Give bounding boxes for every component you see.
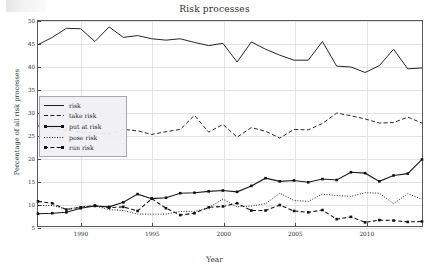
data-point-marker — [79, 206, 82, 209]
data-point-marker — [293, 210, 296, 213]
data-point-marker — [94, 204, 97, 207]
data-point-marker — [335, 179, 338, 182]
data-point-marker — [321, 209, 324, 212]
data-point-marker — [207, 190, 210, 193]
x-tick-label: 1990 — [68, 231, 94, 237]
data-point-marker — [179, 192, 182, 195]
data-point-marker — [293, 179, 296, 182]
data-point-marker — [150, 197, 153, 200]
data-point-marker — [136, 210, 139, 213]
legend-key-icon — [43, 133, 65, 142]
legend-key-icon — [43, 122, 65, 131]
data-point-marker — [421, 158, 424, 161]
data-point-marker — [264, 177, 267, 180]
data-point-marker — [250, 185, 253, 188]
data-point-marker — [406, 172, 409, 175]
data-point-marker — [193, 191, 196, 194]
x-tick-label: 2000 — [211, 231, 237, 237]
data-point-marker — [165, 207, 168, 210]
data-point-marker — [37, 200, 40, 203]
chart-legend: risktake riskput at riskpose riskrun ris… — [39, 96, 127, 157]
data-point-marker — [307, 181, 310, 184]
legend-label: put at risk — [69, 123, 101, 130]
data-point-marker — [364, 221, 367, 224]
data-point-marker — [421, 220, 424, 223]
legend-item-pose-risk[interactable]: pose risk — [43, 132, 122, 143]
data-point-marker — [65, 211, 68, 214]
x-tick-label: 2005 — [282, 231, 308, 237]
data-point-marker — [222, 205, 225, 208]
legend-key-icon — [43, 143, 65, 152]
y-tick-label: 20 — [23, 156, 35, 162]
y-tick-label: 50 — [23, 18, 35, 24]
data-point-marker — [250, 209, 253, 212]
data-point-marker — [350, 171, 353, 174]
data-point-marker — [51, 212, 54, 215]
y-tick-label: 25 — [23, 133, 35, 139]
data-point-marker — [65, 208, 68, 211]
gridline-horizontal — [38, 228, 422, 229]
chart-title: Risk processes — [0, 4, 429, 14]
legend-item-take-risk[interactable]: take risk — [43, 111, 122, 122]
data-point-marker — [392, 174, 395, 177]
data-point-marker — [136, 193, 139, 196]
legend-label: risk — [69, 102, 81, 109]
data-point-marker — [122, 206, 125, 209]
data-point-marker — [236, 191, 239, 194]
data-point-marker — [207, 206, 210, 209]
y-tick-label: 10 — [23, 202, 35, 208]
y-tick-mark — [38, 228, 41, 229]
data-point-marker — [321, 178, 324, 181]
data-point-marker — [179, 214, 182, 217]
data-point-marker — [307, 211, 310, 214]
series-line-risk — [38, 27, 422, 73]
legend-label: run risk — [69, 144, 94, 151]
x-axis-label: Year — [0, 255, 429, 264]
series-line-pose-risk — [38, 193, 422, 214]
legend-item-run-risk[interactable]: run risk — [43, 142, 122, 153]
data-point-marker — [222, 189, 225, 192]
y-tick-label: 5 — [23, 225, 35, 231]
data-point-marker — [378, 180, 381, 183]
chart-figure: Risk processes Percentage of all risk pr… — [0, 0, 429, 265]
x-tick-label: 1995 — [139, 231, 165, 237]
series-line-run-risk — [38, 199, 422, 223]
data-point-marker — [236, 202, 239, 205]
data-point-marker — [350, 216, 353, 219]
data-point-marker — [278, 204, 281, 207]
y-tick-label: 45 — [23, 41, 35, 47]
data-point-marker — [392, 219, 395, 222]
y-tick-label: 40 — [23, 64, 35, 70]
data-point-marker — [37, 212, 40, 215]
x-tick-label: 2010 — [354, 231, 380, 237]
data-point-marker — [51, 202, 54, 205]
data-point-marker — [378, 219, 381, 222]
data-point-marker — [264, 209, 267, 212]
data-point-marker — [108, 206, 111, 209]
data-point-marker — [165, 196, 168, 199]
y-axis-label: Percentage of all risk processes — [13, 37, 21, 207]
data-point-marker — [122, 201, 125, 204]
legend-item-put-at-risk[interactable]: put at risk — [43, 121, 122, 132]
legend-key-icon — [43, 111, 65, 120]
y-tick-label: 35 — [23, 87, 35, 93]
y-tick-label: 30 — [23, 110, 35, 116]
legend-label: take risk — [69, 112, 96, 119]
legend-key-icon — [43, 101, 65, 110]
data-point-marker — [364, 172, 367, 175]
data-point-marker — [193, 212, 196, 215]
data-point-marker — [278, 180, 281, 183]
data-point-marker — [406, 221, 409, 224]
legend-label: pose risk — [69, 134, 97, 141]
data-point-marker — [335, 218, 338, 221]
legend-item-risk[interactable]: risk — [43, 100, 122, 111]
y-tick-label: 15 — [23, 179, 35, 185]
